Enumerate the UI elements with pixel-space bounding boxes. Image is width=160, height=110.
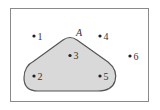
venn-diagram: A 1 4 3 6 2 5 bbox=[0, 0, 160, 110]
point-4-dot bbox=[98, 34, 101, 37]
point-1-dot bbox=[32, 34, 35, 37]
set-a-label: A bbox=[75, 27, 83, 38]
point-4-label: 4 bbox=[104, 31, 109, 42]
point-1-label: 1 bbox=[38, 31, 43, 42]
point-6-dot bbox=[128, 54, 131, 57]
point-5-label: 5 bbox=[104, 71, 109, 82]
point-2-label: 2 bbox=[38, 71, 43, 82]
point-5-dot bbox=[98, 74, 101, 77]
point-6-label: 6 bbox=[134, 51, 139, 62]
point-2-dot bbox=[32, 74, 35, 77]
point-3-label: 3 bbox=[74, 50, 79, 61]
point-3-dot bbox=[68, 54, 71, 57]
